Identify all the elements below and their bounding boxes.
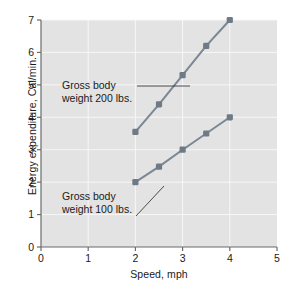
data-point xyxy=(227,17,233,23)
data-point xyxy=(180,147,186,153)
data-point xyxy=(203,43,209,49)
annotation-leader-line xyxy=(136,186,164,216)
data-point xyxy=(227,114,233,120)
y-tick-label: 7 xyxy=(28,14,34,26)
x-tick-label: 3 xyxy=(180,252,186,264)
chart-container: Energy expenditure, Cal/min. Speed, mph … xyxy=(0,0,296,294)
series-annotations: Gross bodyweight 200 lbs.Gross bodyweigh… xyxy=(61,79,190,216)
x-tick-label: 1 xyxy=(85,252,91,264)
y-tick-label: 5 xyxy=(28,79,34,91)
y-tick-label: 2 xyxy=(28,176,34,188)
annotation-1: Gross bodyweight 200 lbs. xyxy=(61,79,190,104)
x-tick-label: 2 xyxy=(132,252,138,264)
y-tick-label: 1 xyxy=(28,208,34,220)
axis-ticks xyxy=(37,20,277,251)
y-tick-label: 4 xyxy=(28,111,34,123)
data-point xyxy=(132,129,138,135)
axis-tick-labels: 01234567012345 xyxy=(28,14,280,264)
annotation-label: Gross bodyweight 100 lbs. xyxy=(61,190,132,215)
x-tick-label: 0 xyxy=(38,252,44,264)
y-tick-label: 6 xyxy=(28,46,34,58)
annotation-2: Gross bodyweight 100 lbs. xyxy=(61,186,164,216)
data-point xyxy=(156,163,162,169)
y-tick-label: 3 xyxy=(28,143,34,155)
data-point xyxy=(132,179,138,185)
data-point xyxy=(180,72,186,78)
data-point xyxy=(156,101,162,107)
y-tick-label: 0 xyxy=(28,241,34,253)
x-tick-label: 5 xyxy=(274,252,280,264)
data-point xyxy=(203,130,209,136)
chart-svg: 01234567012345 Gross bodyweight 200 lbs.… xyxy=(0,0,296,294)
x-tick-label: 4 xyxy=(227,252,233,264)
annotation-label: Gross bodyweight 200 lbs. xyxy=(61,79,132,104)
